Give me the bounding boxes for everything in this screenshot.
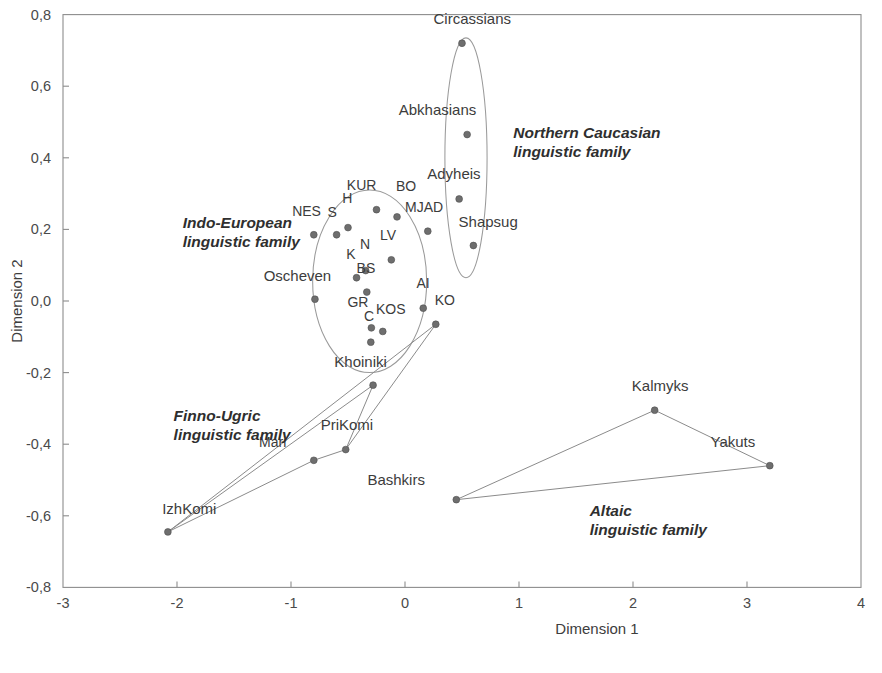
data-point [164, 529, 171, 536]
data-point [470, 242, 477, 249]
axis-tick-labels: -3-2-1012340,80,60,40,20,0-0,2-0,4-0,6-0… [26, 7, 865, 612]
data-point-label: Yakuts [711, 433, 756, 450]
data-point-label: BO [396, 178, 416, 194]
data-point [310, 231, 317, 238]
family-label-text: linguistic family [590, 521, 709, 538]
data-point-label: Oscheven [264, 267, 332, 284]
data-point-label: NES [292, 203, 321, 219]
data-point-label: BS [357, 260, 376, 276]
data-point [420, 305, 427, 312]
family-label-text: linguistic family [174, 426, 293, 443]
data-point-label: N [360, 236, 370, 252]
y-tick-label: -0,8 [26, 579, 51, 595]
family-label-text: linguistic family [183, 233, 302, 250]
family-label-text: Altaic [589, 502, 633, 519]
cluster-ellipse [445, 38, 487, 278]
x-tick-label: -3 [57, 595, 70, 611]
data-point [333, 231, 340, 238]
data-point [432, 321, 439, 328]
data-point-label: Bashkirs [367, 471, 425, 488]
x-tick-label: 0 [401, 595, 409, 611]
data-point [368, 324, 375, 331]
data-point [464, 131, 471, 138]
data-point-label: Kalmyks [632, 377, 689, 394]
data-point [312, 296, 319, 303]
x-tick-label: 1 [515, 595, 523, 611]
data-point-label: Shapsug [459, 213, 518, 230]
data-point [453, 496, 460, 503]
data-point [379, 328, 386, 335]
plot-canvas: -3-2-1012340,80,60,40,20,0-0,2-0,4-0,6-0… [0, 0, 882, 673]
data-point-label: KO [435, 292, 455, 308]
cluster-outline [456, 410, 770, 500]
data-point-label: Abkhasians [399, 101, 477, 118]
data-point [370, 382, 377, 389]
data-point-label: PriKomi [321, 416, 374, 433]
data-point [459, 40, 466, 47]
y-tick-label: 0,4 [31, 150, 51, 166]
data-point [424, 228, 431, 235]
data-point [373, 206, 380, 213]
family-annotations: Northern Caucasianlinguistic familyIndo-… [174, 124, 709, 538]
y-tick-label: -0,4 [26, 436, 51, 452]
data-point [345, 224, 352, 231]
data-point-label: K [346, 246, 356, 262]
data-point-label: S [327, 204, 336, 220]
family-label-text: Finno-Ugric [174, 407, 261, 424]
data-point [456, 196, 463, 203]
data-point [310, 457, 317, 464]
data-point [651, 407, 658, 414]
data-point-label: Adyheis [427, 165, 480, 182]
axis-titles: Dimension 1Dimension 2 [8, 259, 639, 637]
data-point-label: C [364, 308, 374, 324]
family-label-text: linguistic family [513, 143, 632, 160]
x-tick-label: -2 [171, 595, 184, 611]
data-point-label: AI [416, 275, 429, 291]
y-axis-title: Dimension 2 [8, 259, 25, 342]
data-point-label: MJAD [405, 199, 443, 215]
data-point-label: H [342, 190, 352, 206]
y-tick-label: 0,2 [31, 221, 51, 237]
data-point-label: LV [380, 227, 397, 243]
x-tick-label: 3 [743, 595, 751, 611]
data-point-label: Khoiniki [334, 353, 387, 370]
y-tick-label: -0,6 [26, 508, 51, 524]
scatter-plot-figure: -3-2-1012340,80,60,40,20,0-0,2-0,4-0,6-0… [0, 0, 882, 673]
x-axis-title: Dimension 1 [555, 620, 638, 637]
y-tick-label: 0,0 [31, 293, 51, 309]
data-point-label: Circassians [434, 10, 512, 27]
data-point [342, 446, 349, 453]
family-label-text: Indo-European [183, 214, 292, 231]
y-tick-label: 0,8 [31, 7, 51, 23]
data-point-label: KOS [376, 301, 406, 317]
x-tick-label: 4 [857, 595, 865, 611]
data-point [367, 339, 374, 346]
data-point [394, 213, 401, 220]
family-label-text: Northern Caucasian [513, 124, 660, 141]
x-tick-label: -1 [285, 595, 298, 611]
data-point [388, 256, 395, 263]
y-tick-label: 0,6 [31, 78, 51, 94]
data-point-label: IzhKomi [162, 500, 216, 517]
y-tick-label: -0,2 [26, 365, 51, 381]
x-tick-label: 2 [629, 595, 637, 611]
data-point [766, 462, 773, 469]
